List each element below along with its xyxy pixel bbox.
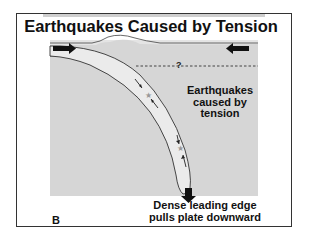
dense-label-line1: Dense leading edge (140, 200, 270, 212)
question-mark: ? (176, 60, 182, 70)
earthquakes-label-line1: Earthquakes (180, 85, 260, 97)
earthquakes-label-line3: tension (180, 108, 260, 120)
earthquakes-label: Earthquakes caused by tension (180, 85, 260, 120)
svg-text:★: ★ (177, 144, 184, 153)
dense-label-line2: pulls plate downward (140, 212, 270, 224)
panel-label: B (52, 214, 60, 226)
dense-edge-label: Dense leading edge pulls plate downward (140, 200, 270, 223)
star-icon: ★ (145, 91, 152, 100)
